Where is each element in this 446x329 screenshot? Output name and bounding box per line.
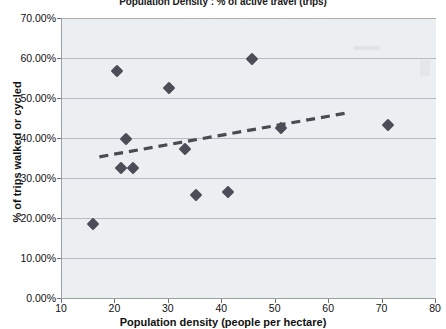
x-tick-label: 50 [269,302,281,314]
x-tick-label: 20 [109,302,121,314]
y-tick-label: 70.00% [0,12,56,24]
x-tick-label: 70 [376,302,388,314]
chart-title: Population Density : % of active travel … [0,0,446,7]
x-tick-label: 10 [55,302,67,314]
y-axis-title: % of trips walked or cycled [11,47,23,257]
y-tick-label: 40.00% [0,132,56,144]
plot-area [61,18,436,299]
x-tick-label: 30 [162,302,174,314]
y-tick-label: 10.00% [0,252,56,264]
x-tick-label: 80 [429,302,441,314]
x-axis-title: Population density (people per hectare) [0,316,446,328]
y-tick-label: 30.00% [0,172,56,184]
y-tick-label: 20.00% [0,212,56,224]
y-tick-label: 60.00% [0,52,56,64]
y-tick-label: 0.00% [0,292,56,304]
x-tick-label: 40 [215,302,227,314]
x-tick-label: 60 [322,302,334,314]
y-tick-label: 50.00% [0,92,56,104]
scatter-chart: Population Density : % of active travel … [0,0,446,329]
